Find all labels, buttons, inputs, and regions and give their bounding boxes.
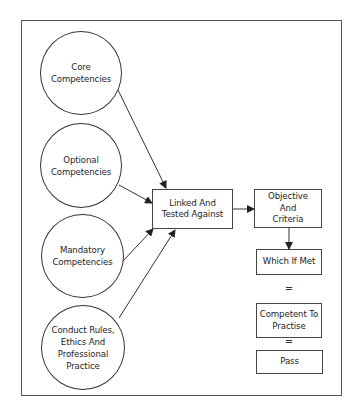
- equals-sign-1: =: [279, 284, 299, 294]
- competent-to-practise-label: Competent To Practise: [260, 309, 318, 332]
- competent-to-practise-box: Competent To Practise: [256, 303, 322, 338]
- which-if-met-box: Which If Met: [256, 249, 322, 275]
- mandatory-competencies-node: Mandatory Competencies: [41, 214, 124, 298]
- core-competencies-node: Core Competencies: [40, 31, 122, 115]
- which-if-met-label: Which If Met: [263, 256, 315, 268]
- linked-tested-label: Linked And Tested Against: [162, 198, 223, 221]
- pass-box: Pass: [256, 350, 323, 374]
- arrow-core-to-center: [118, 90, 166, 188]
- conduct-rules-node: Conduct Rules, Ethics And Professional P…: [41, 305, 125, 390]
- conduct-rules-label: Conduct Rules, Ethics And Professional P…: [52, 324, 115, 372]
- optional-competencies-node: Optional Competencies: [40, 123, 122, 208]
- objective-criteria-box: Objective And Criteria: [254, 189, 322, 228]
- mandatory-competencies-label: Mandatory Competencies: [52, 244, 112, 268]
- arrow-conduct-to-center: [119, 230, 175, 318]
- core-competencies-label: Core Competencies: [51, 61, 111, 85]
- linked-tested-box: Linked And Tested Against: [152, 189, 233, 229]
- optional-competencies-label: Optional Competencies: [51, 154, 111, 178]
- competency-flow-diagram: Core Competencies Optional Competencies …: [0, 0, 358, 414]
- objective-criteria-label: Objective And Criteria: [268, 191, 308, 226]
- arrow-optional-to-center: [119, 185, 152, 203]
- arrow-mandatory-to-center: [122, 229, 153, 262]
- pass-label: Pass: [280, 356, 299, 368]
- equals-sign-2: =: [279, 337, 299, 347]
